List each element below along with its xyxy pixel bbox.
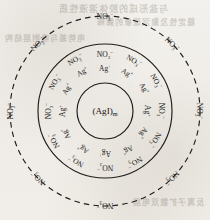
svg-text:Ag+: Ag+ [60,81,74,96]
svg-text:Ag+: Ag+ [138,81,152,96]
adsorbed-ion-label: Ag+ [143,105,152,117]
svg-text:Ag+: Ag+ [120,66,135,80]
svg-text:Ag+: Ag+ [75,142,90,156]
adsorbed-ion-label: Ag+ [60,81,74,96]
svg-text:Ag+: Ag+ [58,105,67,117]
svg-text:NO3−: NO3− [97,11,114,22]
svg-text:Ag+: Ag+ [99,64,111,73]
svg-text:NO3−: NO3− [162,168,182,188]
counter-ion-label-outer: NO3− [194,103,205,120]
svg-text:Ag+: Ag+ [99,149,111,158]
svg-text:NO3−: NO3− [156,103,167,119]
micelle-figure-canvas: 与盐形成的胶体溶液性质 稳定性及聚沉现象的解释 电势差与吸附层结构 反离子扩散双… [0,0,210,220]
counter-ion-label-inner: NO3− [97,49,113,60]
adsorbed-ion-label: Ag+ [58,105,67,117]
adsorbed-ion-label: Ag+ [99,149,111,158]
counter-ion-label-outer: NO3− [97,200,114,211]
svg-text:NO3−: NO3− [162,34,182,54]
counter-ion-label-inner: NO3− [156,103,167,119]
adsorbed-ion-label: Ag+ [120,66,135,80]
svg-text:NO3−: NO3− [97,162,113,173]
counter-ion-label-inner: NO3− [43,103,54,119]
adsorbed-ion-label: Ag+ [59,126,73,141]
svg-text:NO3−: NO3− [194,103,205,120]
adsorbed-ion-label: Ag+ [120,144,135,158]
svg-text:NO3−: NO3− [5,103,16,120]
svg-text:Ag+: Ag+ [143,105,152,117]
svg-text:Ag+: Ag+ [120,144,135,158]
svg-text:Ag+: Ag+ [59,126,73,141]
svg-text:NO3−: NO3− [43,103,54,119]
adsorbed-ion-label: Ag+ [138,81,152,96]
counter-ion-label-outer: NO3− [162,168,182,188]
adsorbed-ion-label: Ag+ [99,64,111,73]
svg-text:NO3−: NO3− [97,200,114,211]
counter-ion-label-outer: NO3− [97,11,114,22]
counter-ion-label-outer: NO3− [162,34,182,54]
core-formula-label: (AgI)m [92,106,117,117]
micelle-diagram-svg: (AgI)m Ag+Ag+Ag+Ag+Ag+Ag+Ag+Ag+Ag+Ag+Ag+… [0,0,210,220]
adsorbed-ion-label: Ag+ [75,142,90,156]
adsorbed-ion-label: Ag+ [75,65,90,79]
counter-ion-label-inner: NO3− [97,162,113,173]
adsorbed-ion-label: Ag+ [136,126,150,141]
svg-text:NO3−: NO3− [97,49,113,60]
counter-ion-label-outer: NO3− [5,103,16,120]
svg-text:Ag+: Ag+ [136,126,150,141]
svg-text:Ag+: Ag+ [75,65,90,79]
